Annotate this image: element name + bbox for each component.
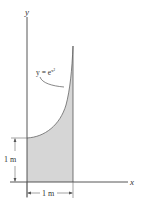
label-leader-line [40, 77, 64, 87]
curve-label: y = ex² [36, 68, 56, 77]
arrow-right-icon [69, 192, 73, 195]
y-axis-label: y [24, 7, 29, 17]
arrow-left-icon [27, 192, 31, 195]
area-diagram: y x y = ex² 1 m 1 m [0, 0, 144, 210]
curve-label-lhs: y = e [36, 68, 52, 77]
curve-label-exponent: x² [51, 68, 56, 73]
arrow-down-icon [14, 178, 17, 182]
x-axis-label: x [129, 177, 134, 187]
arrow-up-icon [14, 138, 17, 142]
width-dim-label: 1 m [42, 189, 55, 198]
shaded-region [27, 46, 73, 182]
height-dim-label: 1 m [4, 155, 17, 164]
